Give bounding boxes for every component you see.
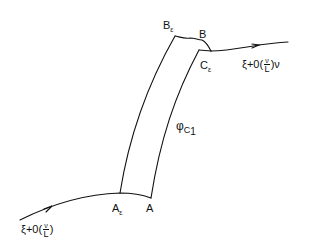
label-a: A xyxy=(146,203,153,214)
arrow-head-incoming xyxy=(44,206,52,212)
left-boundary-curve xyxy=(120,36,175,193)
right-expr-denominator: L xyxy=(264,65,270,74)
label-b-epsilon: Bε xyxy=(163,20,173,31)
label-b: B xyxy=(199,29,206,40)
left-expr-denominator: L xyxy=(43,230,49,239)
left-expr-suffix: ) xyxy=(50,223,54,235)
right-top-segment xyxy=(199,50,211,51)
label-left-expression: ξ+0(νL) xyxy=(21,222,53,239)
label-right-expression: ξ+0(νL)ν xyxy=(242,57,280,74)
right-expr-prefix: ξ+0( xyxy=(242,58,263,70)
incoming-curve xyxy=(20,193,151,220)
label-b-main: B xyxy=(199,28,206,40)
left-expr-fraction: νL xyxy=(43,222,49,239)
right-expr-fraction: νL xyxy=(264,57,270,74)
outgoing-curve xyxy=(211,42,288,51)
left-expr-prefix: ξ+0( xyxy=(21,223,42,235)
label-c-epsilon: Cε xyxy=(200,60,211,71)
label-c-epsilon-sub: ε xyxy=(208,66,211,73)
label-a-main: A xyxy=(146,202,153,214)
right-expr-suffix: )ν xyxy=(271,58,280,70)
label-phi-main: φ xyxy=(176,119,184,133)
label-phi-c1: φC1 xyxy=(176,120,196,132)
label-a-epsilon: Aε xyxy=(112,203,122,214)
label-phi-subsub: 1 xyxy=(190,126,196,137)
label-c-epsilon-main: C xyxy=(200,59,208,71)
diagram-canvas xyxy=(0,0,313,251)
